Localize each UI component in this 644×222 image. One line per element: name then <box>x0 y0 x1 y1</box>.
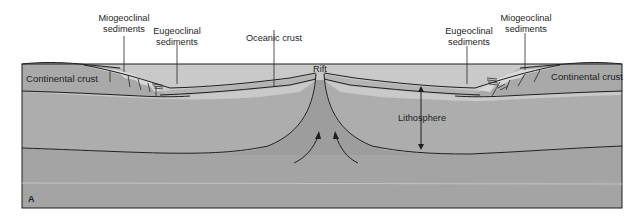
label-miogeoclinal-left-1: Miogeoclinal <box>98 13 149 23</box>
label-lithosphere: Lithosphere <box>398 113 446 123</box>
label-rift: Rift <box>313 64 327 74</box>
label-eugeoclinal-right-1: Eugeoclinal <box>445 26 493 36</box>
label-oceanic-crust: Oceanic crust <box>246 33 303 43</box>
label-miogeoclinal-left-2: sediments <box>103 24 145 34</box>
label-eugeoclinal-right-2: sediments <box>448 37 490 47</box>
diagram-body <box>22 63 622 209</box>
label-miogeoclinal-right-1: Miogeoclinal <box>500 13 551 23</box>
panel-label: A <box>28 194 35 204</box>
label-continental-crust-right: Continental crust <box>551 71 623 82</box>
label-eugeoclinal-left-2: sediments <box>156 37 198 47</box>
label-miogeoclinal-right-2: sediments <box>505 24 547 34</box>
label-continental-crust-left: Continental crust <box>26 73 98 84</box>
rift-cross-section-diagram: Miogeoclinal sediments Eugeoclinal sedim… <box>0 0 644 222</box>
label-eugeoclinal-left-1: Eugeoclinal <box>153 26 201 36</box>
